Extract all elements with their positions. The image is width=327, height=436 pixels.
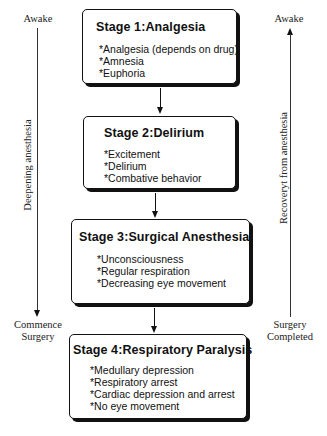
left-bottom-label-line1: Commence [5, 319, 71, 331]
stage-2-item: *Excitement [104, 148, 201, 160]
stage-3-item: *Decreasing eye movement [97, 277, 226, 289]
stage-4-item: *Medullary depression [90, 364, 235, 376]
right-bottom-label-line2: Completed [255, 331, 325, 343]
stage-2-items: *Excitement *Delirium *Combative behavio… [104, 148, 201, 184]
stage-3-items: *Unconsciousness *Regular respiration *D… [97, 253, 226, 289]
stage-2-box: Stage 2:Delirium *Excitement *Delirium *… [83, 116, 236, 189]
right-bottom-label: Surgery Completed [255, 319, 325, 343]
arrow-down-icon [151, 326, 157, 333]
right-rotated-label: Recoveryt from anesthesia [278, 103, 290, 233]
left-bottom-label: Commence Surgery [5, 319, 71, 343]
arrow-stage1-to-stage2 [160, 88, 161, 108]
stage-1-box: Stage 1:Analgesia *Analgesia (depends on… [82, 9, 237, 84]
right-top-label: Awake [263, 13, 315, 25]
stage-2-item: *Delirium [104, 160, 201, 172]
arrow-down-icon [152, 211, 158, 218]
right-axis-line [290, 34, 291, 317]
stage-3-item: *Unconsciousness [97, 253, 226, 265]
left-bottom-label-line2: Surgery [5, 331, 71, 343]
stage-1-item: *Amnesia [99, 55, 238, 67]
arrow-stage3-to-stage4 [154, 308, 155, 327]
stage-4-item: *Cardiac depression and arrest [90, 388, 235, 400]
left-axis-arrow-down-icon [34, 310, 40, 317]
left-axis-line [37, 28, 38, 311]
stage-4-title: Stage 4:Respiratory Paralysis [73, 343, 252, 357]
stage-4-box: Stage 4:Respiratory Paralysis *Medullary… [69, 334, 247, 419]
right-bottom-label-line1: Surgery [255, 319, 325, 331]
stage-4-items: *Medullary depression *Respiratory arres… [90, 364, 235, 412]
arrow-down-icon [157, 107, 163, 114]
stage-2-title: Stage 2:Delirium [104, 126, 204, 140]
stage-1-item: *Analgesia (depends on drug) [99, 43, 238, 55]
stage-1-item: *Euphoria [99, 67, 238, 79]
arrow-stage2-to-stage3 [155, 193, 156, 212]
left-rotated-label: Deepening anesthesia [22, 115, 34, 215]
stage-1-items: *Analgesia (depends on drug) *Amnesia *E… [99, 43, 238, 79]
stage-3-title: Stage 3:Surgical Anesthesia [79, 230, 249, 244]
stage-4-item: *No eye movement [90, 400, 235, 412]
stage-3-box: Stage 3:Surgical Anesthesia *Unconscious… [71, 219, 250, 304]
stage-1-title: Stage 1:Analgesia [96, 20, 205, 34]
stage-4-item: *Respiratory arrest [90, 376, 235, 388]
left-top-label: Awake [12, 13, 64, 25]
stage-3-item: *Regular respiration [97, 265, 226, 277]
stage-2-item: *Combative behavior [104, 172, 201, 184]
